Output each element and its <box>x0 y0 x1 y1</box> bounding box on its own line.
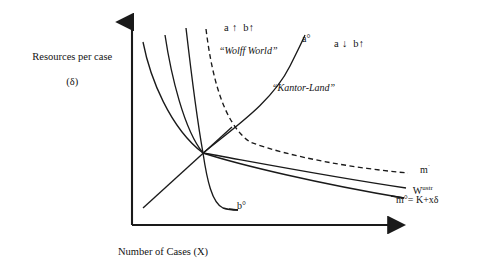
region-label-kantor-land: “Kantor-Land” <box>272 82 335 94</box>
annotation-a-down-b-up: a ↓ b↑ <box>334 38 364 50</box>
region-label-wolff-world: “Wolff World” <box>219 45 277 57</box>
curve-m-zero <box>143 42 404 198</box>
curve-label-m-prime-sup: ˈ <box>428 163 430 171</box>
curve-label-a-zero: a° <box>302 33 310 45</box>
y-axis-label: Resources per case (δ) <box>8 39 126 101</box>
x-axis-label: Number of Cases (X) <box>118 246 278 258</box>
curve-label-b-zero: b° <box>237 200 246 212</box>
curve-label-w-sup: ustr <box>422 184 433 192</box>
y-axis-label-line2: (δ) <box>66 76 78 87</box>
annotation-a-up-b-up: a ↑ b↑ <box>224 22 254 34</box>
curve-label-m-formula: m°= K+xδ <box>396 194 439 206</box>
diagram-figure: Resources per case (δ) Number of Cases (… <box>0 0 477 269</box>
y-axis-label-line1: Resources per case <box>32 51 112 62</box>
curve-w-ustr <box>165 35 406 188</box>
